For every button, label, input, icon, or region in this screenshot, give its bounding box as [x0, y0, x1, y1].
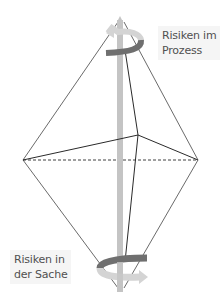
edge-front-lower — [125, 135, 138, 262]
arrow-top-dark-part — [106, 40, 141, 53]
edge-front-upper — [125, 50, 138, 135]
rotation-axis-pole-front — [117, 262, 123, 288]
rotation-arrow-bottom — [100, 258, 148, 284]
pole-top-tip — [117, 16, 123, 22]
label-risks-in-process: Risiken im Prozess — [158, 26, 220, 60]
rotation-axis-pole — [117, 20, 123, 292]
edge-front-right — [138, 135, 198, 160]
arrow-bottom-head-icon — [139, 270, 148, 284]
rotation-arrow-top — [106, 26, 141, 53]
arrow-bottom-dark-part — [100, 258, 147, 268]
edge-top-left — [23, 22, 118, 160]
label-risks-in-matter: Risiken in der Sache — [10, 250, 71, 284]
edge-bottom-right — [124, 160, 198, 288]
